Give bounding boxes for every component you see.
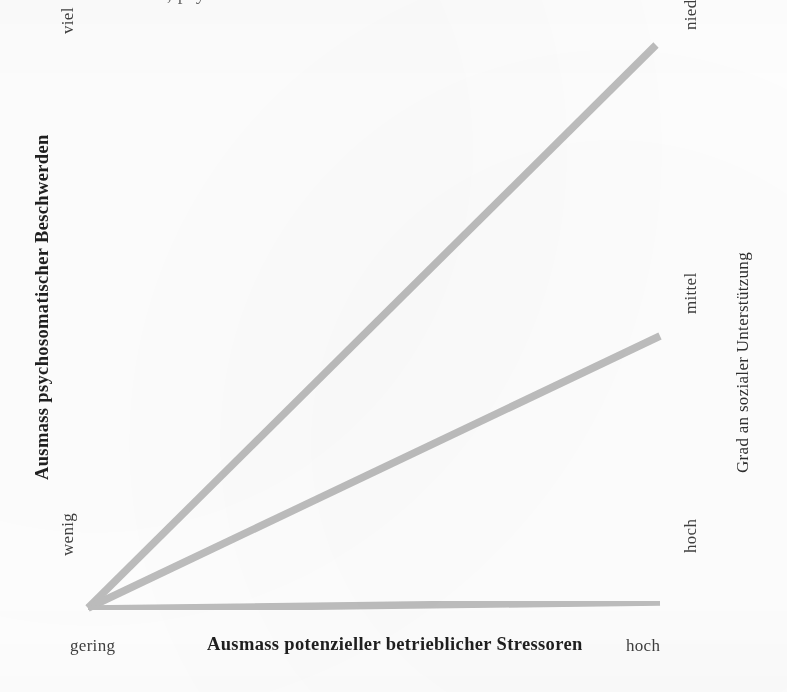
x-axis-tick-left: gering	[70, 636, 115, 656]
series-line-niedrig	[88, 45, 656, 608]
figure-canvas: ersonale Ressourcen, psychosomatische Be…	[0, 0, 787, 692]
right-axis-title: Grad an sozialer Unterstützung	[733, 252, 753, 473]
series-label-niedrig: niedrig	[681, 0, 701, 30]
y-axis-tick-top: viel	[58, 7, 78, 34]
y-axis-tick-bottom: wenig	[58, 513, 78, 556]
y-axis-title: Ausmass psychosomatischer Beschwerden	[32, 134, 53, 480]
series-line-mittel	[88, 336, 660, 608]
series-line-hoch	[88, 602, 660, 609]
x-axis-tick-right: hoch	[626, 636, 660, 656]
series-label-hoch: hoch	[681, 519, 701, 553]
x-axis-title: Ausmass potenzieller betrieblicher Stres…	[207, 634, 583, 655]
series-label-mittel: mittel	[681, 273, 701, 314]
chart-plot-area	[0, 0, 787, 692]
